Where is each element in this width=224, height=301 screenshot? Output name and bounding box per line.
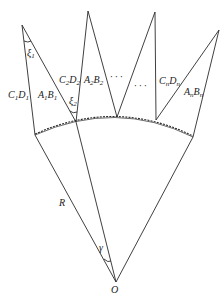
edge-a1b1 [22, 25, 76, 122]
label-a2b2: A2B2 [83, 74, 104, 87]
label-ellipsis-2: · · · [134, 80, 147, 91]
edge-a2b2 [88, 11, 117, 117]
radius-line-right [116, 137, 193, 282]
edge-intermediate [117, 12, 155, 117]
label-ellipsis-1: · · · [110, 71, 123, 82]
label-xi1: ξ1 [27, 47, 35, 60]
angle-arc-xi1 [24, 41, 31, 42]
label-c1d1: C1D1 [8, 89, 29, 102]
label-gamma: γ [99, 242, 104, 253]
label-radius: R [58, 197, 65, 208]
label-anbn: AnBn [183, 86, 204, 99]
label-origin: O [111, 284, 118, 295]
label-xi2: ξ2 [69, 95, 77, 108]
blade-geometry-diagram: ξ1 ξ2 C1D1 A1B1 C2D2 A2B2 · · · · · · Cn… [0, 0, 224, 301]
edge-c2d2 [76, 11, 88, 122]
label-a1b1: A1B1 [37, 89, 57, 102]
base-arc [35, 117, 193, 137]
label-c2d2: C2D2 [59, 74, 80, 87]
edge-cndn [155, 12, 156, 120]
radius-line-left [35, 135, 116, 282]
radius-line-middle [76, 122, 116, 282]
label-cndn: CnDn [159, 75, 180, 88]
edge-anbn-right [193, 30, 219, 137]
